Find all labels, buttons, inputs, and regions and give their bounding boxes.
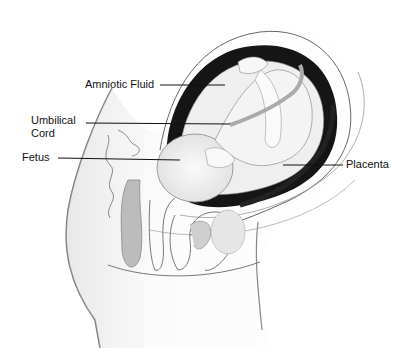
label-fetus: Fetus (22, 151, 50, 164)
label-amniotic-fluid: Amniotic Fluid (85, 78, 154, 91)
anatomy-illustration (0, 0, 414, 348)
label-umbilical-cord-line2: Cord (31, 127, 55, 140)
label-placenta: Placenta (346, 158, 389, 171)
bladder (211, 210, 245, 254)
rectum (121, 180, 142, 267)
label-umbilical-cord-line1: Umbilical (31, 114, 76, 127)
diagram: Amniotic Fluid Umbilical Cord Fetus Plac… (0, 0, 414, 348)
